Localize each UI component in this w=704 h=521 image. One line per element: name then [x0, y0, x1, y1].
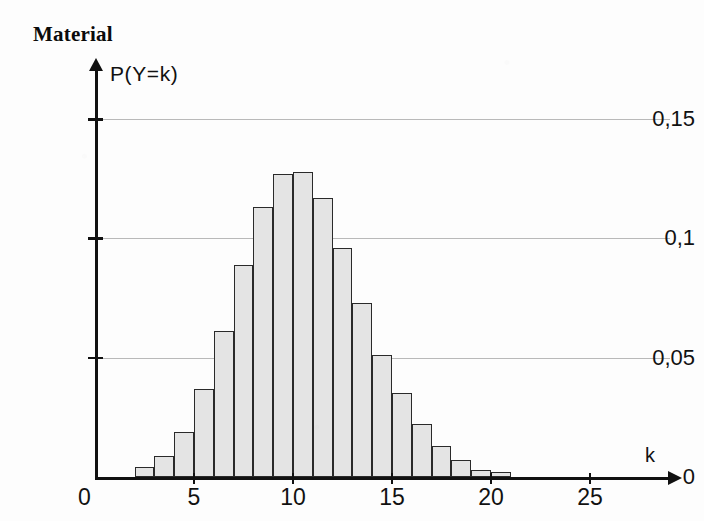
- histogram-bar: [471, 470, 491, 477]
- y-axis-tick-mark: [88, 357, 103, 360]
- histogram-bar: [154, 456, 174, 477]
- x-axis-origin-label: 0: [78, 484, 91, 511]
- y-axis-tick-label: 0: [616, 464, 704, 490]
- y-axis-tick-mark: [88, 118, 103, 121]
- y-axis-tick-label: 0,15: [616, 106, 704, 132]
- histogram-bar: [214, 331, 234, 477]
- x-axis-tick-label: 5: [188, 484, 201, 511]
- x-axis-tick-mark: [589, 473, 591, 484]
- x-axis-tick-label: 25: [577, 484, 603, 511]
- histogram-bar: [313, 198, 333, 477]
- histogram-bar: [273, 174, 293, 477]
- gridline: [95, 238, 670, 239]
- histogram-bar: [174, 432, 194, 477]
- histogram-bar: [432, 446, 452, 477]
- x-axis-tick-mark: [490, 473, 492, 484]
- x-axis-tick-label: 20: [478, 484, 504, 511]
- histogram-bar: [194, 389, 214, 477]
- histogram-bar: [293, 172, 313, 477]
- histogram-bar: [392, 393, 412, 477]
- x-axis-tick-label: 15: [379, 484, 405, 511]
- y-axis-arrow-icon: [89, 58, 103, 71]
- gridline: [95, 119, 670, 120]
- histogram-bar: [352, 303, 372, 477]
- y-axis-line: [95, 68, 98, 479]
- histogram-bar: [372, 355, 392, 477]
- x-axis-tick-label: 10: [280, 484, 306, 511]
- x-axis-line: [95, 477, 670, 480]
- histogram-bar: [412, 424, 432, 477]
- histogram-bar: [234, 265, 254, 477]
- y-axis-title: P(Y=k): [110, 62, 178, 86]
- histogram-bar: [333, 248, 353, 477]
- x-axis-tick-mark: [193, 473, 195, 484]
- histogram-plot: P(Y=k) k 00,050,10,15 0510152025: [0, 0, 704, 521]
- x-axis-tick-mark: [292, 473, 294, 484]
- histogram-bar: [451, 460, 471, 477]
- histogram-bar: [253, 207, 273, 477]
- histogram-bar: [135, 467, 155, 477]
- y-axis-tick-label: 0,05: [616, 345, 704, 371]
- y-axis-tick-label: 0,1: [616, 225, 704, 251]
- x-axis-tick-mark: [391, 473, 393, 484]
- y-axis-tick-mark: [88, 237, 103, 240]
- chart-page: Material P(Y=k) k 00,050,10,15 051015202…: [0, 0, 704, 521]
